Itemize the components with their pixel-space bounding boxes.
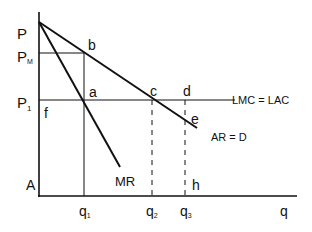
curve-label-mr: MR [115,174,135,189]
origin-label-a: A [26,177,36,193]
point-label-b: b [88,37,96,53]
axis-label-q: q [280,203,288,219]
price-label-p1: P1 [17,94,32,113]
quantity-label-q2: q2 [146,203,158,219]
mr-curve [39,22,120,167]
monopoly-diagram: P PM P1 A b a c d e f h LMC = LAC AR = D… [0,0,312,232]
point-label-f: f [44,105,48,121]
axis-label-p: P [17,25,27,42]
quantity-label-q1: q1 [79,203,91,219]
point-label-e: e [191,111,199,127]
curve-label-lmc-lac: LMC = LAC [232,94,289,106]
curve-label-ar-d: AR = D [211,131,247,143]
point-label-a: a [89,84,97,100]
point-label-h: h [192,177,200,193]
price-label-pm: PM [17,48,33,65]
point-label-d: d [183,83,191,99]
demand-curve [39,22,197,128]
point-label-c: c [150,83,157,99]
quantity-label-q3: q3 [180,203,192,219]
